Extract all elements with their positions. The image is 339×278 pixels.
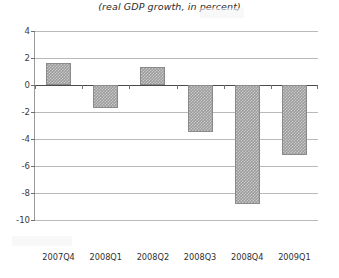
bar-2008Q3	[188, 85, 213, 132]
x-tick-mark	[177, 85, 178, 89]
bar-2007Q4	[46, 63, 71, 85]
y-axis-tick-label: -8	[2, 188, 30, 198]
bar-2008Q4	[235, 85, 260, 204]
y-axis-tick-label: -4	[2, 134, 30, 144]
gridline--2	[35, 112, 318, 113]
y-axis-tick-label: 2	[2, 53, 30, 63]
y-axis-tick-label: -6	[2, 161, 30, 171]
x-tick-mark	[35, 85, 36, 89]
bar-2008Q2	[140, 67, 165, 85]
gridline-2	[35, 58, 318, 59]
x-tick-mark	[82, 85, 83, 89]
x-axis-tick-label: 2008Q2	[137, 252, 170, 262]
y-axis-tick-label: -10	[2, 215, 30, 225]
bar-2009Q1	[282, 85, 307, 155]
x-tick-mark	[317, 85, 318, 89]
y-axis-tick-label: -2	[2, 107, 30, 117]
y-axis-tick-label: 4	[2, 26, 30, 36]
x-axis-tick-label: 2009Q1	[278, 252, 311, 262]
x-axis-tick-label: 2008Q3	[184, 252, 217, 262]
gridline--6	[35, 166, 318, 167]
y-axis-tick-label: 0	[2, 80, 30, 90]
bar-2008Q1	[93, 85, 118, 108]
x-axis-labels: 2007Q42008Q12008Q22008Q32008Q42009Q1	[35, 252, 318, 266]
chart-title: (real GDP growth, in percent)	[0, 1, 339, 12]
gridline--10	[35, 220, 318, 221]
x-axis-tick-label: 2008Q1	[90, 252, 123, 262]
x-axis-tick-label: 2008Q4	[231, 252, 264, 262]
gridline--8	[35, 193, 318, 194]
gridline--4	[35, 139, 318, 140]
x-axis-tick-label: 2007Q4	[42, 252, 75, 262]
x-tick-mark	[271, 85, 272, 89]
plot-area	[35, 31, 318, 220]
gridline-4	[35, 31, 318, 32]
x-tick-mark	[224, 85, 225, 89]
chart-container: (real GDP growth, in percent) 420-2-4-6-…	[0, 0, 339, 278]
x-tick-mark	[129, 85, 130, 89]
